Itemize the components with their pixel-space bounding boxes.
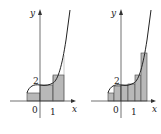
rectangle — [135, 75, 141, 101]
x-axis-label: x — [72, 104, 77, 114]
tick-label-one: 1 — [50, 107, 56, 117]
tick-label-two: 2 — [114, 76, 120, 86]
rectangle — [27, 93, 40, 101]
y-axis-arrow-icon — [119, 9, 123, 15]
rectangle — [128, 84, 135, 101]
left-chart: y x 0 1 2 — [10, 8, 77, 118]
rectangle — [53, 75, 64, 101]
origin-label: 0 — [32, 105, 38, 115]
rectangle — [108, 93, 114, 101]
rectangle — [114, 86, 121, 101]
right-chart: y x 0 1 2 — [91, 8, 157, 118]
y-axis-arrow-icon — [38, 9, 42, 15]
rectangle — [40, 85, 53, 101]
tick-label-two: 2 — [33, 76, 39, 86]
figure: y x 0 1 2 y x 0 1 2 — [0, 0, 161, 134]
y-axis-label: y — [29, 8, 36, 18]
y-axis-label: y — [110, 8, 117, 18]
rectangle — [121, 85, 128, 101]
x-axis-arrow-icon — [71, 99, 76, 103]
origin-label: 0 — [113, 105, 119, 115]
rectangle — [141, 53, 147, 101]
tick-label-one: 1 — [131, 107, 137, 117]
x-axis-arrow-icon — [151, 99, 156, 103]
x-axis-label: x — [152, 104, 157, 114]
